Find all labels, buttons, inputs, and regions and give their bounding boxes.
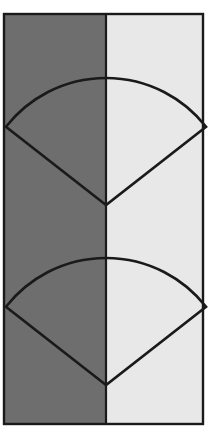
figure-stage [0,0,210,444]
geometric-diagram [0,0,210,444]
light-right-panel [106,14,203,424]
dark-left-panel [4,14,106,424]
